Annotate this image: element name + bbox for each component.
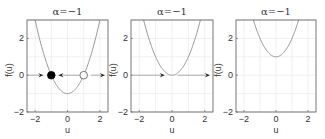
panel-title: α=−1 (157, 6, 187, 17)
y-tick-label: −2 (14, 107, 24, 117)
x-axis-label: u (169, 125, 174, 135)
y-tick-label: −2 (118, 107, 128, 117)
y-tick-label: 0 (228, 70, 233, 80)
x-tick-label: 2 (305, 114, 310, 124)
x-tick-label: −2 (134, 114, 144, 124)
panel-title: α=−1 (53, 6, 83, 17)
x-tick-label: 2 (97, 114, 102, 124)
x-axis-label: u (65, 125, 70, 135)
y-axis-label: f(u) (108, 63, 118, 77)
x-tick-label: 0 (169, 114, 174, 124)
y-tick-label: 2 (228, 33, 233, 43)
x-tick-label: −2 (239, 114, 249, 124)
panel-2: −202−202uf(u)α=−1 (108, 0, 213, 135)
panel-3: −202−202uf(u)α=−1 (213, 0, 316, 135)
y-tick-label: −2 (223, 107, 233, 117)
panels-group: −202−202uf(u)α=−1−202−202uf(u)α=−1−202−2… (4, 0, 316, 135)
y-tick-label: 2 (123, 33, 128, 43)
stable-fixed-point-marker (48, 71, 56, 79)
y-axis-label: f(u) (213, 63, 223, 77)
x-tick-label: 2 (202, 114, 207, 124)
panel-1: −202−202uf(u)α=−1 (4, 0, 108, 135)
chart-svg: −202−202uf(u)α=−1−202−202uf(u)α=−1−202−2… (0, 0, 325, 139)
unstable-fixed-point-marker (80, 71, 88, 79)
x-tick-label: 0 (65, 114, 70, 124)
x-tick-label: −2 (30, 114, 40, 124)
y-tick-label: 0 (123, 70, 128, 80)
y-tick-label: 2 (19, 33, 24, 43)
bifurcation-figure: −202−202uf(u)α=−1−202−202uf(u)α=−1−202−2… (0, 0, 325, 139)
x-axis-label: u (273, 125, 278, 135)
y-axis-label: f(u) (4, 63, 14, 77)
panel-title: α=−1 (261, 6, 291, 17)
x-tick-label: 0 (273, 114, 278, 124)
y-tick-label: 0 (19, 70, 24, 80)
